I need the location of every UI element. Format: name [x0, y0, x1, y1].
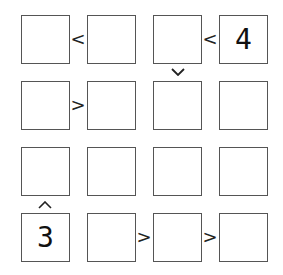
- cell-r1-c2[interactable]: [153, 81, 202, 130]
- less-than-sign-r0-c0c1: <: [70, 30, 86, 48]
- cell-r2-c2[interactable]: [153, 147, 202, 196]
- greater-than-sign-r1-c0c1: >: [70, 96, 86, 114]
- cell-r0-c0[interactable]: [21, 15, 70, 64]
- cell-r1-c1[interactable]: [87, 81, 136, 130]
- cell-r1-c0[interactable]: [21, 81, 70, 130]
- cell-r2-c3[interactable]: [219, 147, 268, 196]
- chevron-up-icon: [38, 201, 52, 209]
- cell-r0-c1[interactable]: [87, 15, 136, 64]
- cell-r2-c1[interactable]: [87, 147, 136, 196]
- cell-r0-c3[interactable]: 4: [219, 15, 268, 64]
- greater-than-sign-r3-c2c3: >: [202, 228, 218, 246]
- cell-r3-c1[interactable]: [87, 213, 136, 262]
- cell-r0-c2[interactable]: [153, 15, 202, 64]
- chevron-down-icon: [171, 68, 185, 76]
- cell-r3-c2[interactable]: [153, 213, 202, 262]
- cell-r2-c0[interactable]: [21, 147, 70, 196]
- less-than-sign-r0-c2c3: <: [202, 30, 218, 48]
- greater-than-sign-r3-c1c2: >: [136, 228, 152, 246]
- cell-r3-c0[interactable]: 3: [21, 213, 70, 262]
- cell-r1-c3[interactable]: [219, 81, 268, 130]
- cell-r3-c3[interactable]: [219, 213, 268, 262]
